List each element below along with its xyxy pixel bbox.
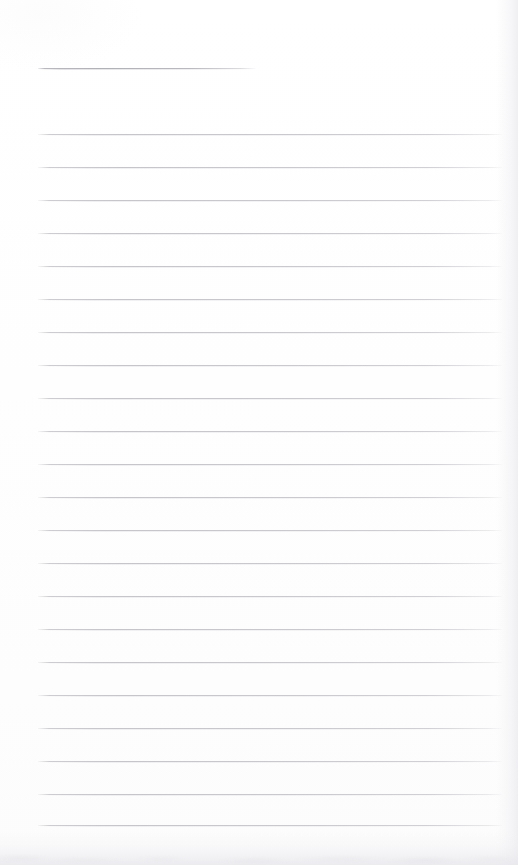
- scan-shadow-band: [0, 831, 518, 865]
- page-edge-shadow: [496, 0, 518, 865]
- rule-6: [38, 299, 502, 300]
- rule-20: [38, 761, 502, 762]
- rule-13: [38, 530, 502, 531]
- rule-9: [38, 398, 502, 399]
- corner-highlight: [0, 0, 140, 70]
- rule-16: [38, 629, 502, 630]
- rule-12: [38, 497, 502, 498]
- rule-22: [38, 825, 502, 826]
- rule-1: [38, 134, 502, 135]
- rule-8: [38, 365, 502, 366]
- header-rule: [38, 68, 256, 69]
- rule-7: [38, 332, 502, 333]
- scanned-page: [0, 0, 518, 865]
- rule-17: [38, 662, 502, 663]
- rule-18: [38, 695, 502, 696]
- rule-19: [38, 728, 502, 729]
- rule-14: [38, 563, 502, 564]
- rule-2: [38, 167, 502, 168]
- scan-speckle-noise: [0, 835, 518, 865]
- rule-15: [38, 596, 502, 597]
- rule-21: [38, 794, 502, 795]
- rule-4: [38, 233, 502, 234]
- rule-5: [38, 266, 502, 267]
- rule-10: [38, 431, 502, 432]
- rule-3: [38, 200, 502, 201]
- rule-11: [38, 464, 502, 465]
- paper-background: [0, 0, 518, 865]
